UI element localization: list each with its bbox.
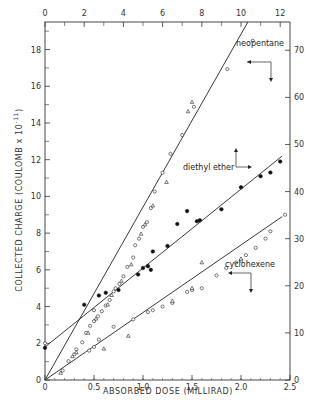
cyclohexene-point-circle <box>112 325 115 328</box>
x-axis-title: ABSORBED DOSE (MILLIRAD) <box>103 387 233 396</box>
y-tick-label: 14 <box>31 119 41 128</box>
neopentane-point-triangle <box>186 110 190 113</box>
neopentane-point-circle <box>122 275 125 278</box>
cyclohexene-point-circle <box>88 349 91 352</box>
neopentane-point-circle <box>153 190 156 193</box>
cyclohexene-point-circle <box>146 310 149 313</box>
y-tick-label: 0 <box>36 376 41 385</box>
x2-tick-label: 4 <box>121 9 126 18</box>
diethyl-ether-point-open <box>43 342 46 345</box>
neopentane-point-triangle <box>190 100 194 103</box>
y-tick-label: 2 <box>36 339 41 348</box>
y-axis-left: 024681012141618 <box>31 31 50 385</box>
chart: 00.51.01.52.02.5 024681012 0246810121416… <box>0 0 322 411</box>
cyclohexene-label: cyclohexene <box>225 260 275 269</box>
plot-frame <box>45 22 290 380</box>
y2-tick-label: 50 <box>294 140 304 149</box>
diethyl-ether-point-filled <box>146 264 150 268</box>
x2-tick-label: 8 <box>199 9 204 18</box>
cyclohexene-point-circle <box>92 345 95 348</box>
y-axis-title-close: ) <box>15 108 24 112</box>
neopentane-point-circle <box>96 315 99 318</box>
diethyl-ether-point-filled <box>117 288 121 292</box>
x-axis-top: 024681012 <box>42 9 285 27</box>
neopentane-point-circle <box>81 341 84 344</box>
neopentane-point-circle <box>108 298 111 301</box>
diethyl-ether-point-filled <box>269 171 273 175</box>
arrow-head-icon <box>234 148 238 152</box>
y2-tick-label: 30 <box>294 235 304 244</box>
diethyl-ether-fit-line <box>45 156 282 347</box>
neopentane-point-circle <box>112 290 115 293</box>
cyclohexene-point-circle <box>244 254 247 257</box>
x2-tick-label: 10 <box>236 9 246 18</box>
cyclohexene-point-circle <box>161 305 164 308</box>
diethyl-ether-point-open <box>92 309 95 312</box>
cyclohexene-point-triangle <box>75 350 79 353</box>
arrow-head-icon <box>249 289 253 293</box>
diethyl-ether-point-filled <box>176 222 180 226</box>
diethyl-ether-point-filled <box>220 207 224 211</box>
neopentane-point-circle <box>126 265 129 268</box>
neopentane-point-circle <box>181 133 184 136</box>
y-tick-label: 12 <box>31 156 41 165</box>
neopentane-point-triangle <box>151 204 155 207</box>
neopentane-label: neopentane <box>236 39 284 48</box>
neopentane-point-circle <box>161 171 164 174</box>
neopentane-point-circle <box>61 369 64 372</box>
cyclohexene-point-triangle <box>190 286 194 289</box>
plot-border <box>45 22 290 380</box>
x2-tick-label: 0 <box>42 9 47 18</box>
neopentane-point-circle <box>226 68 229 71</box>
neopentane-point-circle <box>118 282 121 285</box>
x2-tick-label: 6 <box>160 9 165 18</box>
y-tick-label: 8 <box>36 229 41 238</box>
cyclohexene-point-circle <box>200 287 203 290</box>
neopentane-arrow <box>247 62 271 80</box>
neopentane-point-circle <box>132 256 135 259</box>
cyclohexene-point-triangle <box>102 347 106 350</box>
diethyl-ether-point-filled <box>43 346 47 350</box>
y2-tick-label: 40 <box>294 188 304 197</box>
cyclohexene-point-circle <box>132 318 135 321</box>
diethyl-ether-point-filled <box>141 266 145 270</box>
y-axis-title-main: COLLECTED CHARGE (COULOMB x 10 <box>15 124 24 292</box>
diethyl-ether-point-filled <box>104 291 108 295</box>
x-tick-label: 0.5 <box>88 383 101 392</box>
x-tick-label: 2.0 <box>235 383 248 392</box>
diethyl-ether-point-filled <box>198 218 202 222</box>
y2-tick-label: 0 <box>294 376 299 385</box>
cyclohexene-point-triangle <box>127 334 131 337</box>
diethyl-ether-label: diethyl ether <box>183 163 235 172</box>
arrow-head-icon <box>269 78 273 82</box>
neopentane-point-triangle <box>165 180 169 183</box>
y-tick-label: 4 <box>36 303 41 312</box>
cyclohexene-point-circle <box>254 246 257 249</box>
x2-tick-label: 12 <box>275 9 285 18</box>
fit-lines <box>45 22 282 380</box>
diethyl-ether-arrow <box>236 150 250 167</box>
neopentane-point-triangle <box>120 279 124 282</box>
y-axis-title-exp: -11 <box>12 112 19 124</box>
cyclohexene-point-circle <box>151 309 154 312</box>
diethyl-ether-point-filled <box>151 250 155 254</box>
y-tick-label: 10 <box>31 192 41 201</box>
y-axis-right: 010203040506070 <box>285 46 304 385</box>
diethyl-ether-point-filled <box>136 273 140 277</box>
annotations: neopentanediethyl ethercyclohexene <box>183 39 284 293</box>
data-points <box>43 39 287 374</box>
arrow-head-icon <box>248 165 252 169</box>
diethyl-ether-point-filled <box>149 268 153 272</box>
x-tick-label: 0 <box>42 383 47 392</box>
y-tick-label: 16 <box>31 82 41 91</box>
cyclohexene-point-circle <box>284 213 287 216</box>
cyclohexene-point-circle <box>97 338 100 341</box>
neopentane-point-circle <box>169 152 172 155</box>
neopentane-point-triangle <box>139 232 143 235</box>
neopentane-point-circle <box>134 244 137 247</box>
y2-tick-label: 10 <box>294 329 304 338</box>
y-tick-label: 6 <box>36 266 41 275</box>
arrow-head-icon <box>247 60 251 64</box>
y2-tick-label: 60 <box>294 93 304 102</box>
neopentane-point-circle <box>67 360 70 363</box>
